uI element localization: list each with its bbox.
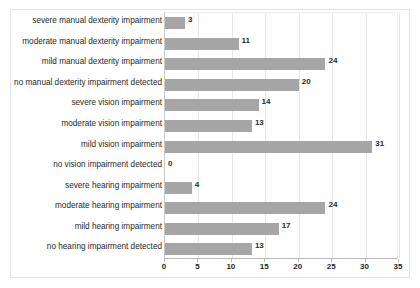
gridline — [399, 13, 400, 258]
bar[interactable] — [165, 38, 239, 50]
x-tick-label: 10 — [226, 262, 235, 271]
bar-row: no vision impairment detected0 — [165, 157, 397, 178]
bar-row: no hearing impairment detected13 — [165, 239, 397, 260]
category-label: no vision impairment detected — [12, 160, 162, 169]
bar[interactable] — [165, 79, 299, 91]
bar[interactable] — [165, 99, 259, 111]
bar-value-label: 24 — [328, 200, 337, 209]
category-label: moderate vision impairment — [12, 119, 162, 128]
bar-row: mild manual dexterity impairment24 — [165, 54, 397, 75]
bar-row: moderate hearing impairment24 — [165, 198, 397, 219]
bar[interactable] — [165, 141, 372, 153]
bar-value-label: 31 — [375, 139, 384, 148]
bar-value-label: 4 — [195, 180, 199, 189]
category-label: moderate manual dexterity impairment — [12, 37, 162, 46]
category-label: no hearing impairment detected — [12, 242, 162, 251]
plot-area: severe manual dexterity impairment3moder… — [164, 12, 398, 259]
bar-value-label: 13 — [255, 118, 264, 127]
x-axis: 05101520253035 — [164, 260, 398, 276]
bar-value-label: 11 — [242, 36, 250, 45]
x-tick-label: 0 — [162, 262, 166, 271]
bar[interactable] — [165, 182, 192, 194]
category-label: moderate hearing impairment — [12, 201, 162, 210]
x-tick-label: 5 — [195, 262, 199, 271]
category-label: mild manual dexterity impairment — [12, 57, 162, 66]
category-label: severe manual dexterity impairment — [12, 16, 162, 25]
x-tick-label: 15 — [260, 262, 269, 271]
bar-row: mild hearing impairment17 — [165, 219, 397, 240]
category-label: mild vision impairment — [12, 140, 162, 149]
category-label: severe vision impairment — [12, 98, 162, 107]
bar-value-label: 14 — [262, 97, 271, 106]
bar-value-label: 17 — [282, 221, 291, 230]
bar[interactable] — [165, 120, 252, 132]
bar[interactable] — [165, 17, 185, 29]
category-label: severe hearing impairment — [12, 181, 162, 190]
bar-rows: severe manual dexterity impairment3moder… — [165, 13, 397, 258]
x-tick-label: 30 — [360, 262, 369, 271]
bar-value-label: 13 — [255, 241, 264, 250]
bar-row: severe vision impairment14 — [165, 95, 397, 116]
bar[interactable] — [165, 58, 325, 70]
bar[interactable] — [165, 223, 279, 235]
x-tick-label: 20 — [293, 262, 302, 271]
bar-row: no manual dexterity impairment detected2… — [165, 75, 397, 96]
bar-value-label: 20 — [302, 77, 311, 86]
category-label: mild hearing impairment — [12, 222, 162, 231]
bar-row: severe manual dexterity impairment3 — [165, 13, 397, 34]
chart-frame: severe manual dexterity impairment3moder… — [10, 9, 410, 278]
bar-row: moderate vision impairment13 — [165, 116, 397, 137]
bar-value-label: 0 — [168, 159, 172, 168]
x-tick-label: 25 — [327, 262, 336, 271]
x-tick-label: 35 — [394, 262, 403, 271]
bar-value-label: 24 — [328, 56, 337, 65]
bar[interactable] — [165, 202, 325, 214]
bar-row: moderate manual dexterity impairment11 — [165, 34, 397, 55]
bar-row: mild vision impairment31 — [165, 137, 397, 158]
category-label: no manual dexterity impairment detected — [12, 78, 162, 87]
bar[interactable] — [165, 243, 252, 255]
bar-value-label: 3 — [188, 15, 192, 24]
bar-row: severe hearing impairment4 — [165, 178, 397, 199]
